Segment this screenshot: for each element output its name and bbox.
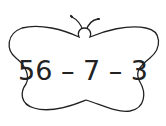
math-expression: 56 – 7 – 3	[0, 54, 166, 88]
